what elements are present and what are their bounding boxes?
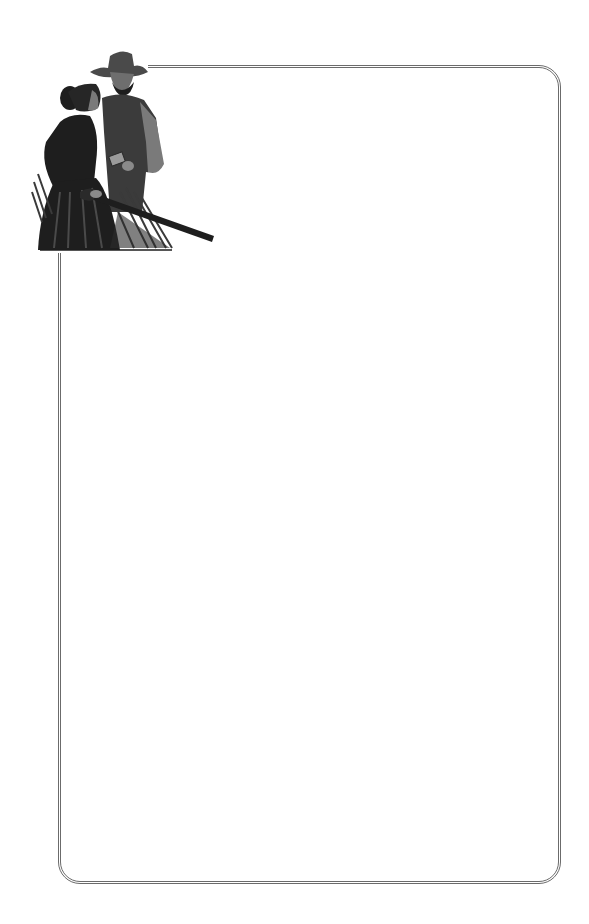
- writing-area[interactable]: [75, 270, 540, 860]
- western-couple-illustration-icon: [30, 42, 220, 252]
